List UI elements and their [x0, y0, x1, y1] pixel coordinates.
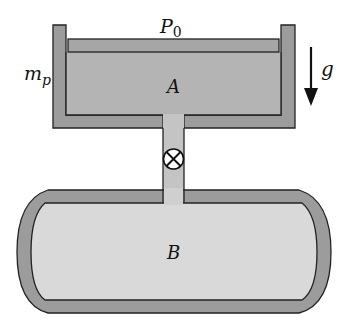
diagram-canvas: P0 mp g A B	[0, 0, 346, 324]
chamber-a-label: A	[165, 76, 180, 97]
gravity-arrow-icon	[304, 47, 318, 106]
tank-b-label: B	[166, 242, 180, 263]
ambient-pressure-label: P0	[159, 15, 182, 40]
piston-mass-label: mp	[24, 62, 51, 88]
piston	[68, 39, 279, 52]
piston-cylinder-tank-diagram: P0 mp g A B	[0, 0, 346, 324]
gravity-label: g	[321, 57, 334, 81]
valve-icon[interactable]	[164, 149, 184, 169]
